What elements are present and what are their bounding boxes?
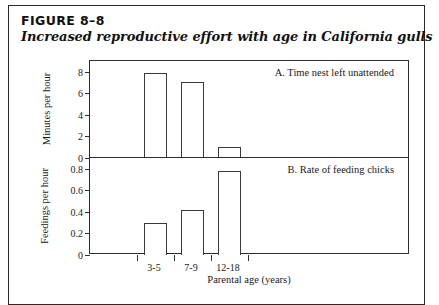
x-category-label-3-5: 3-5 [147, 262, 160, 273]
y-tick-label: 0 [78, 153, 83, 164]
y-tick-label: 2 [78, 131, 83, 142]
y-tick-label: 8 [78, 66, 83, 77]
x-category-label-12-18: 12-18 [216, 262, 239, 273]
y-tick-mark [85, 233, 90, 234]
figure-title: Increased reproductive effort with age i… [21, 29, 433, 44]
y-tick-mark [85, 136, 90, 137]
panel-a: A. Time nest left unattended Minutes per… [90, 61, 408, 158]
y-tick-mark [85, 169, 90, 170]
y-tick-mark [85, 212, 90, 213]
bar-b-12-18 [218, 171, 241, 255]
y-tick-mark [85, 190, 90, 191]
y-tick-label: 0.4 [71, 206, 84, 217]
bar-a-7-9 [181, 82, 204, 157]
panel-b: B. Rate of feeding chicks Feedings per h… [90, 158, 408, 255]
x-category-label-7-9: 7-9 [184, 262, 197, 273]
figure-container: FIGURE 8–8 Increased reproductive effort… [8, 5, 425, 305]
x-axis-title: Parental age (years) [89, 274, 409, 285]
x-axis-category-labels: 3-57-912-18 [89, 254, 409, 268]
panel-b-bars [90, 158, 408, 255]
y-tick-mark [85, 93, 90, 94]
y-tick-label: 0.8 [71, 163, 84, 174]
panel-a-y-axis-title: Minutes per hour [41, 73, 52, 145]
y-tick-label: 0.6 [71, 185, 84, 196]
panel-a-bars [90, 61, 408, 157]
bar-b-7-9 [181, 210, 204, 255]
y-tick-label: 4 [78, 109, 83, 120]
y-tick-label: 0.2 [71, 228, 84, 239]
plot-frame: A. Time nest left unattended Minutes per… [89, 60, 409, 254]
y-tick-label: 0 [78, 250, 83, 261]
y-tick-mark [85, 115, 90, 116]
bar-a-12-18 [218, 147, 241, 157]
figure-number: FIGURE 8–8 [21, 13, 105, 28]
y-tick-mark [85, 72, 90, 73]
bar-b-3-5 [144, 223, 167, 255]
y-tick-label: 6 [78, 88, 83, 99]
bar-a-3-5 [144, 73, 167, 157]
panel-b-y-axis-title: Feedings per hour [39, 168, 50, 244]
